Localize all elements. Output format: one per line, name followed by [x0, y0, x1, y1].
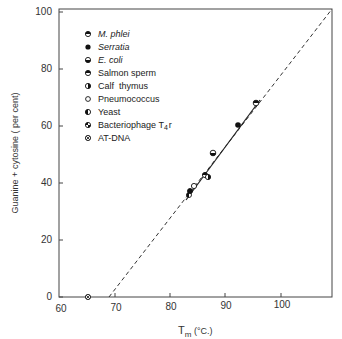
legend-marker-serratia: [85, 44, 90, 49]
data-points: [85, 100, 258, 299]
point-pneumococcus: [191, 183, 196, 188]
y-tick-0: 0: [46, 291, 52, 302]
point-serratia: [235, 122, 241, 128]
point-at-dna: [85, 294, 90, 299]
legend-label-serratia: Serratia: [98, 42, 130, 52]
fit-line: [186, 100, 260, 200]
y-tick-labels: 0 20 40 60 80 100: [35, 6, 52, 302]
x-tick-100: 100: [274, 299, 291, 310]
legend-label-m-phlei: M. phlei: [98, 29, 131, 39]
x-tick-70: 70: [110, 302, 122, 313]
legend-label-calf-thymus: Calf thymus: [98, 81, 149, 91]
point-m-phlei: [253, 100, 259, 106]
legend-marker-salmon-sperm: [85, 70, 90, 75]
legend-marker-e-coli: [85, 57, 90, 62]
legend-label-bacteriophage-t4r: Bacteriophage T4r: [98, 120, 172, 131]
y-tick-80: 80: [41, 63, 53, 74]
chart: 0 20 40 60 80 100 60 70 80 90 100 Guanin…: [0, 0, 342, 339]
x-tick-60: 60: [55, 303, 67, 314]
point-calf-thymus: [205, 174, 210, 179]
x-axis-title: Tm (°C.): [178, 324, 213, 339]
y-axis-title: Guanine + cytosine ( per cent): [10, 93, 20, 214]
point-bacteriophage-t4r: [188, 189, 193, 194]
y-tick-20: 20: [41, 234, 53, 245]
y-tick-40: 40: [41, 177, 53, 188]
legend-label-salmon-sperm: Salmon sperm: [98, 68, 156, 78]
y-axis: [59, 12, 63, 297]
legend-marker-m-phlei: [85, 31, 90, 36]
legend: M. phlei Serratia E. coli Salmon sperm C…: [85, 29, 171, 143]
legend-label-yeast: Yeast: [98, 107, 121, 117]
plot-frame: [59, 9, 332, 297]
y-tick-60: 60: [41, 120, 53, 131]
legend-marker-pneumococcus: [86, 97, 91, 102]
x-tick-90: 90: [220, 300, 232, 311]
x-tick-80: 80: [165, 301, 177, 312]
y-tick-100: 100: [35, 6, 52, 17]
legend-label-at-dna: AT-DNA: [98, 133, 130, 143]
legend-marker-calf-thymus: [85, 83, 90, 88]
point-e-coli: [210, 150, 216, 156]
legend-label-e-coli: E. coli: [98, 55, 124, 65]
legend-label-pneumococcus: Pneumococcus: [98, 94, 160, 104]
legend-marker-bacteriophage-t4r: [85, 122, 90, 127]
x-tick-labels: 60 70 80 90 100: [55, 299, 290, 314]
legend-marker-at-dna: [85, 135, 90, 140]
legend-marker-yeast: [85, 109, 90, 114]
x-axis: [115, 293, 281, 297]
